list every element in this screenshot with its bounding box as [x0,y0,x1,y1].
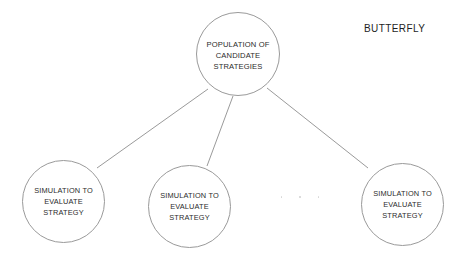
node-label: SIMULATION TO EVALUATE STRATEGY [34,185,93,218]
edge-root-to-sim-3 [267,88,368,168]
node-label: SIMULATION TO EVALUATE STRATEGY [160,190,219,223]
node-simulation-to-evaluate-strategy-2[interactable]: SIMULATION TO EVALUATE STRATEGY [148,165,231,248]
node-population-of-candidate-strategies[interactable]: POPULATION OF CANDIDATE STRATEGIES [196,12,280,96]
diagram-canvas: POPULATION OF CANDIDATE STRATEGIES SIMUL… [0,0,461,258]
node-simulation-to-evaluate-strategy-3[interactable]: SIMULATION TO EVALUATE STRATEGY [361,163,444,246]
edge-root-to-sim-2 [207,96,233,166]
ellipsis-icon [281,192,319,202]
node-label: POPULATION OF CANDIDATE STRATEGIES [207,39,270,72]
diagram-title: BUTTERFLY [364,23,425,34]
ellipsis-dot [281,196,282,197]
node-simulation-to-evaluate-strategy-1[interactable]: SIMULATION TO EVALUATE STRATEGY [22,160,105,243]
ellipsis-dot [318,196,319,197]
node-label: SIMULATION TO EVALUATE STRATEGY [373,188,432,221]
ellipsis-dot [299,196,300,197]
edge-root-to-sim-1 [97,89,208,168]
